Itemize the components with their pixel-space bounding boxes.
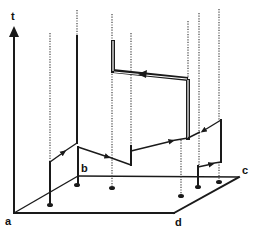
corner-label-b: b xyxy=(81,162,88,174)
corner-label-a: a xyxy=(5,215,12,227)
direction-arrow-icon xyxy=(138,70,147,78)
station-projections xyxy=(50,9,219,195)
trajectory-path xyxy=(50,36,221,205)
axis-arrow-icon xyxy=(9,26,19,37)
time-axis: t xyxy=(9,10,19,213)
corner-label-c: c xyxy=(242,164,248,176)
corner-label-d: d xyxy=(175,216,182,228)
base-plane: a b c d xyxy=(5,162,248,228)
axis-label-t: t xyxy=(11,10,15,22)
station-feet xyxy=(47,180,222,207)
space-time-diagram: t a b c d xyxy=(0,0,254,232)
